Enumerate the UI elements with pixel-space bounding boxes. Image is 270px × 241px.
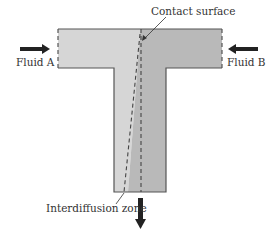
- interdiffusion-zone-label: Interdiffusion zone: [46, 203, 147, 214]
- fluid-a-arrow-icon: [20, 44, 50, 54]
- fluid-b-label: Fluid B: [227, 57, 266, 68]
- fluid-a-region: [58, 29, 141, 192]
- fluid-a-label: Fluid A: [16, 57, 54, 68]
- fluid-b-region: [128, 29, 222, 192]
- fluid-b-arrow-icon: [228, 44, 258, 54]
- contact-surface-label: Contact surface: [151, 6, 235, 17]
